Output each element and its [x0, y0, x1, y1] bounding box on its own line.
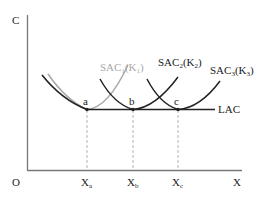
x-tick-c: Xc: [172, 176, 183, 190]
sac2-label: SAC2(K2): [158, 56, 202, 70]
cost-curves-diagram: C O X a b c LAC SAC1(K1) SAC2(K2) SAC3(K…: [0, 0, 264, 199]
origin-label: O: [12, 176, 20, 188]
point-a-label: a: [83, 95, 88, 107]
x-tick-b: Xb: [127, 176, 139, 190]
point-b: [131, 108, 135, 112]
sac3-label: SAC3(K3): [210, 64, 254, 78]
x-tick-a: Xa: [81, 176, 93, 190]
sac3-curve: [147, 79, 220, 110]
x-axis-label: X: [233, 176, 241, 188]
sac1-label: SAC1(K1): [100, 61, 144, 75]
point-c-label: c: [174, 95, 179, 107]
y-axis-label: C: [12, 14, 19, 26]
lac-label: LAC: [218, 103, 240, 115]
point-c: [176, 108, 180, 112]
point-b-label: b: [129, 95, 135, 107]
point-a: [85, 108, 89, 112]
